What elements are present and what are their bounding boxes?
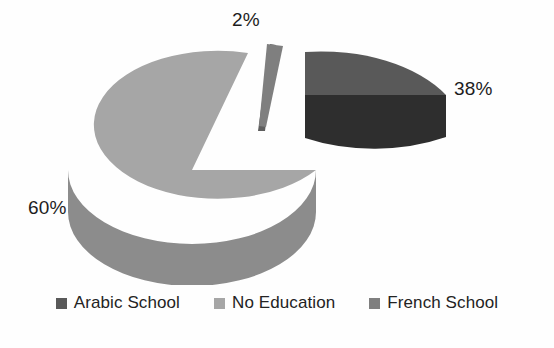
slice-arabic-school-top — [305, 51, 446, 95]
legend-item-no-education[interactable]: No Education — [214, 293, 335, 313]
legend-label-french-school: French School — [387, 293, 498, 313]
pie-chart-svg — [0, 0, 554, 285]
pie-chart-figure: 2% 38% 60% Arabic School No Education Fr… — [0, 0, 554, 348]
legend-item-french-school[interactable]: French School — [369, 293, 498, 313]
legend-item-arabic-school[interactable]: Arabic School — [56, 293, 180, 313]
square-swatch-icon — [369, 298, 380, 309]
legend-label-arabic-school: Arabic School — [74, 293, 180, 313]
legend-label-no-education: No Education — [232, 293, 335, 313]
data-label-arabic-school: 38% — [454, 78, 493, 100]
slice-arabic-school-front-face — [305, 95, 446, 149]
slice-arabic-school[interactable] — [305, 51, 446, 148]
slice-french-school[interactable] — [258, 44, 283, 131]
chart-legend: Arabic School No Education French School — [0, 288, 554, 318]
data-label-no-education: 60% — [28, 197, 67, 219]
square-swatch-icon — [214, 298, 225, 309]
slice-french-school-top — [259, 44, 283, 127]
slice-no-education-top — [94, 51, 316, 199]
data-label-french-school: 2% — [232, 9, 260, 31]
pie-chart-plot-area: 2% 38% 60% — [0, 0, 554, 285]
slice-no-education[interactable] — [68, 51, 316, 285]
square-swatch-icon — [56, 298, 67, 309]
